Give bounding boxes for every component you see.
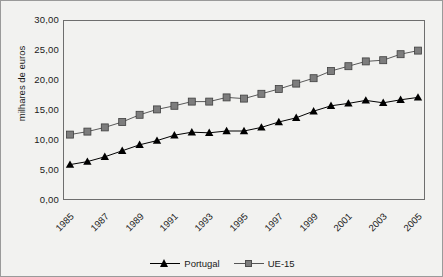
legend-item-ue15: UE-15 xyxy=(234,258,295,269)
chart-legend: Portugal UE-15 xyxy=(1,253,443,273)
x-tick-label: 1995 xyxy=(214,211,250,247)
x-tick-label: 1993 xyxy=(179,211,215,247)
chart-figure: 0,005,0010,0015,0020,0025,0030,00 milhar… xyxy=(0,0,443,277)
x-tick-label: 2005 xyxy=(388,211,424,247)
x-tick-label: 1985 xyxy=(40,211,76,247)
legend-item-portugal: Portugal xyxy=(150,258,219,269)
legend-label-portugal: Portugal xyxy=(184,258,219,269)
x-tick-label: 1997 xyxy=(249,211,285,247)
triangle-marker-icon xyxy=(150,258,180,269)
x-tick-label: 1989 xyxy=(109,211,145,247)
legend-label-ue15: UE-15 xyxy=(268,258,295,269)
x-axis-tick-labels: 1985198719891991199319951997199920012003… xyxy=(1,1,443,277)
x-tick-label: 1991 xyxy=(144,211,180,247)
square-marker-icon xyxy=(234,258,264,269)
x-tick-label: 2001 xyxy=(318,211,354,247)
x-tick-label: 1987 xyxy=(75,211,111,247)
x-tick-label: 2003 xyxy=(353,211,389,247)
x-tick-label: 1999 xyxy=(283,211,319,247)
